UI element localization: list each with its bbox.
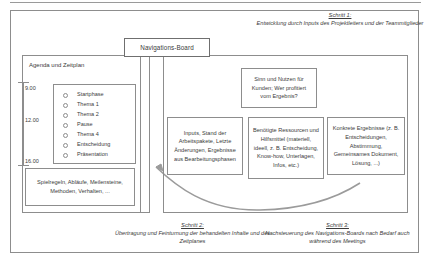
- list-item[interactable]: Thema 4: [54, 130, 135, 140]
- navigations-board-label: Navigations-Board: [140, 44, 194, 51]
- agenda-panel-title: Agenda und Zeitplan: [29, 62, 84, 68]
- list-item[interactable]: Thema 2: [54, 110, 135, 120]
- agenda-item-label: Startphase: [77, 92, 104, 98]
- circle-bullet-icon: [63, 103, 68, 108]
- step3-heading: Schritt 3:: [255, 222, 420, 228]
- circle-bullet-icon: [63, 123, 68, 128]
- circle-bullet-icon: [63, 113, 68, 118]
- customer-benefit-card: Sinn und Nutzen für Kunden; Wer profitie…: [241, 68, 317, 108]
- page-top-rule: [10, 2, 421, 3]
- list-item[interactable]: Startphase: [54, 90, 135, 100]
- list-item[interactable]: Entscheidung: [54, 140, 135, 150]
- agenda-item-label: Thema 1: [77, 102, 99, 108]
- list-item[interactable]: Pause: [54, 120, 135, 130]
- step3-caption: Schritt 3: Nachsteuerung des Navigations…: [255, 222, 420, 246]
- agenda-item-label: Pause: [77, 122, 93, 128]
- timeline-tick-bottom: [18, 165, 29, 166]
- connector-horizontal-right: [210, 55, 408, 56]
- timeline-axis: [23, 82, 24, 166]
- inputs-status-text: Inputs, Stand der Arbeitspakete, Letzte …: [172, 129, 238, 164]
- circle-bullet-icon: [63, 133, 68, 138]
- connector-vertical-left: [140, 47, 141, 213]
- agenda-item-label: Thema 2: [77, 112, 99, 118]
- circle-bullet-icon: [63, 153, 68, 158]
- agenda-item-list: Startphase Thema 1 Thema 2 Pause Thema 4…: [54, 85, 135, 160]
- step1-heading: Schritt 1:: [255, 12, 425, 18]
- circle-bullet-icon: [63, 93, 68, 98]
- rules-card: Spielregeln, Abläufe, Meilensteine, Meth…: [25, 168, 135, 206]
- connector-vertical-right: [163, 47, 164, 213]
- results-text: Konkrete Ergebnisse (z. B. Entscheidunge…: [332, 124, 400, 167]
- timeline-labels: 9.00 12.00 16.00: [25, 84, 51, 164]
- navigations-board-node[interactable]: Navigations-Board: [124, 38, 210, 57]
- step2-heading: Schritt 2:: [110, 222, 275, 228]
- circle-bullet-icon: [63, 143, 68, 148]
- step2-caption: Schritt 2: Übertragung und Feinturnung d…: [110, 222, 275, 246]
- time-label-2: 12.00: [25, 117, 39, 123]
- connector-horizontal-left: [86, 55, 124, 56]
- customer-benefit-text: Sinn und Nutzen für Kunden; Wer profitie…: [246, 75, 312, 101]
- list-item[interactable]: Präsentation: [54, 150, 135, 160]
- results-card: Konkrete Ergebnisse (z. B. Entscheidunge…: [327, 117, 405, 175]
- step2-body: Übertragung und Feinturnung der behandel…: [110, 229, 275, 246]
- step1-body: Entwicklung durch Inputs des Projektleit…: [255, 19, 425, 27]
- timeline-tick-top: [18, 82, 29, 83]
- agenda-items-card: Startphase Thema 1 Thema 2 Pause Thema 4…: [53, 84, 136, 164]
- agenda-item-label: Entscheidung: [77, 142, 110, 148]
- resources-text: Benötigte Ressourcen und Hilfsmittel (ma…: [253, 126, 319, 169]
- agenda-item-label: Präsentation: [77, 152, 108, 158]
- step3-body: Nachsteuerung des Navigations-Boards nac…: [255, 229, 420, 246]
- rules-card-text: Spielregeln, Abläufe, Meilensteine, Meth…: [30, 178, 130, 195]
- time-label-3: 16.00: [25, 158, 39, 164]
- list-item[interactable]: Thema 1: [54, 100, 135, 110]
- step1-caption: Schritt 1: Entwicklung durch Inputs des …: [255, 12, 425, 27]
- resources-card: Benötigte Ressourcen und Hilfsmittel (ma…: [248, 117, 324, 179]
- agenda-item-label: Thema 4: [77, 132, 99, 138]
- inputs-status-card: Inputs, Stand der Arbeitspakete, Letzte …: [167, 117, 243, 175]
- time-label-1: 9.00: [25, 85, 36, 91]
